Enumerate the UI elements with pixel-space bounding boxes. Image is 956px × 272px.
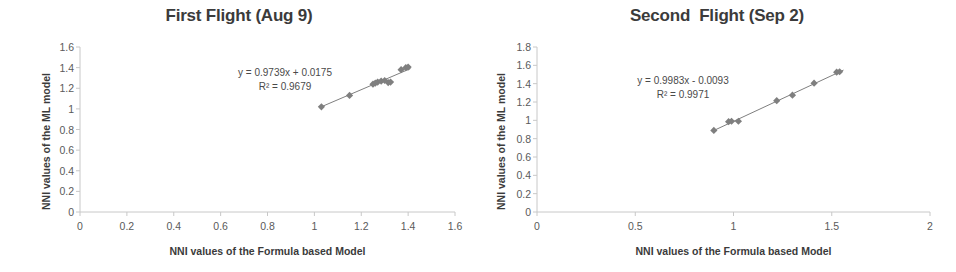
- data-point-marker: [773, 97, 780, 104]
- chart-panel-second-flight: Second Flight (Sep 2) NNI values of the …: [478, 0, 956, 272]
- regression-annotation-first-flight: y = 0.9739x + 0.0175 R² = 0.9679: [210, 66, 360, 94]
- y-tick-label: 0.2: [46, 185, 74, 197]
- y-tick-label: 0.2: [503, 188, 531, 200]
- y-tick-label: 0.8: [503, 133, 531, 145]
- regression-equation-second-flight: y = 0.9983x - 0.0093: [603, 74, 763, 88]
- x-tick-label: 1.4: [401, 220, 416, 232]
- scatter-plot-figure: First Flight (Aug 9) NNI values of the F…: [0, 0, 956, 272]
- y-tick-label: 1.6: [46, 41, 74, 53]
- data-point-marker: [735, 118, 742, 125]
- y-tick-label: 1.4: [46, 62, 74, 74]
- x-axis-title-first-flight: NNI values of the Formula based Model: [80, 245, 455, 257]
- y-tick-label: 1: [503, 114, 531, 126]
- data-point-marker: [318, 103, 325, 110]
- x-tick-label: 0.5: [628, 220, 643, 232]
- y-tick-label: 0: [503, 206, 531, 218]
- regression-annotation-second-flight: y = 0.9983x - 0.0093 R² = 0.9971: [603, 74, 763, 102]
- y-tick-label: 1.2: [503, 96, 531, 108]
- x-tick-label: 0.6: [213, 220, 228, 232]
- y-tick-label: 1.2: [46, 82, 74, 94]
- x-axis-title-second-flight: NNI values of the Formula based Model: [537, 245, 930, 257]
- r-squared-first-flight: R² = 0.9679: [210, 80, 360, 94]
- x-tick-label: 0.2: [120, 220, 135, 232]
- x-tick-label: 2: [927, 220, 933, 232]
- chart-panel-first-flight: First Flight (Aug 9) NNI values of the F…: [0, 0, 478, 272]
- regression-equation-first-flight: y = 0.9739x + 0.0175: [210, 66, 360, 80]
- data-point-marker: [710, 127, 717, 134]
- y-tick-label: 0.6: [503, 151, 531, 163]
- x-tick-label: 1: [311, 220, 317, 232]
- x-tick-label: 1.2: [354, 220, 369, 232]
- x-tick-label: 0.8: [260, 220, 275, 232]
- x-tick-label: 0.4: [166, 220, 181, 232]
- r-squared-second-flight: R² = 0.9971: [603, 88, 763, 102]
- x-tick-label: 1: [731, 220, 737, 232]
- y-tick-label: 0: [46, 206, 74, 218]
- y-tick-label: 0.8: [46, 124, 74, 136]
- y-tick-label: 1.4: [503, 78, 531, 90]
- x-tick-label: 1.5: [824, 220, 839, 232]
- x-tick-label: 0: [534, 220, 540, 232]
- x-tick-label: 1.6: [448, 220, 463, 232]
- y-tick-label: 0.4: [46, 165, 74, 177]
- data-point-marker: [810, 80, 817, 87]
- y-tick-label: 1.8: [503, 41, 531, 53]
- y-tick-label: 0.4: [503, 169, 531, 181]
- y-tick-label: 1.6: [503, 59, 531, 71]
- x-tick-label: 0: [77, 220, 83, 232]
- y-tick-label: 0.6: [46, 144, 74, 156]
- y-tick-label: 1: [46, 103, 74, 115]
- plot-area-second-flight: [478, 0, 956, 272]
